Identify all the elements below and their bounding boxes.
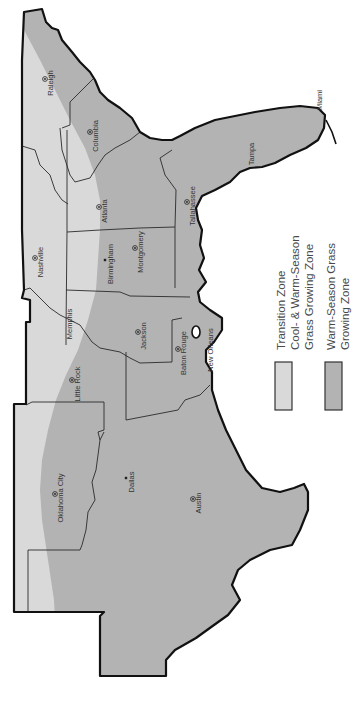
legend-transition-line-3: Grass Growing Zone bbox=[303, 244, 315, 350]
legend-swatch-transition bbox=[275, 362, 292, 410]
city-new-orleans: New Orleans bbox=[206, 328, 215, 372]
city-label: Raleigh bbox=[46, 70, 55, 95]
city-label: Columbia bbox=[91, 119, 100, 152]
legend-warm-line-1: Warm-Season Grass bbox=[325, 243, 337, 350]
city-label: Birmingham bbox=[106, 244, 115, 284]
grass-zone-map: RaleighColumbiaAtlantaTallahasseeTampaMi… bbox=[0, 0, 355, 713]
city-label: Atlanta bbox=[100, 199, 109, 223]
city-label: Tampa bbox=[247, 142, 256, 165]
city-label: Nashville bbox=[36, 247, 45, 277]
city-birmingham: Birmingham bbox=[104, 244, 115, 284]
city-label: New Orleans bbox=[206, 328, 215, 372]
city-tampa: Tampa bbox=[247, 142, 256, 165]
city-label: Memphis bbox=[65, 309, 74, 340]
legend-transition-line-1: Transition Zone bbox=[275, 271, 287, 350]
city-label: Dallas bbox=[127, 471, 136, 492]
city-memphis: Memphis bbox=[65, 309, 74, 340]
legend-warm-line-2: Growing Zone bbox=[339, 278, 351, 350]
city-label: Oklahoma City bbox=[56, 473, 65, 522]
city-dallas: Dallas bbox=[125, 471, 136, 492]
florida-keys bbox=[326, 120, 336, 144]
city-label: Jackson bbox=[139, 322, 148, 350]
city-miami: Miami bbox=[315, 90, 324, 110]
city-label: Tallahassee bbox=[188, 186, 197, 226]
city-label: Baton Rouge bbox=[179, 331, 188, 375]
lake-pontchartrain bbox=[192, 326, 200, 338]
legend: Transition Zone Cool- & Warm-Season Gras… bbox=[275, 235, 351, 410]
city-label: Austin bbox=[194, 493, 203, 514]
legend-transition-line-2: Cool- & Warm-Season bbox=[289, 235, 301, 350]
city-label: Miami bbox=[315, 90, 324, 110]
legend-swatch-warm-season bbox=[325, 362, 342, 410]
city-label: Little Rock bbox=[73, 366, 82, 401]
city-label: Montgomery bbox=[136, 231, 145, 273]
